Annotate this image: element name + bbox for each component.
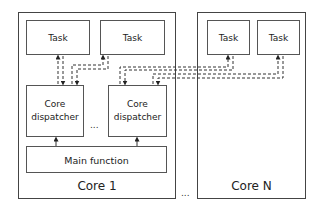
dispatcher-label-line1: Core (109, 98, 166, 111)
core-1-task-1: Task (26, 20, 90, 55)
dispatcher-label: Core dispatcher (109, 98, 166, 124)
dispatcher-ellipsis: ... (90, 120, 99, 130)
dispatcher-label-line2: dispatcher (27, 111, 83, 124)
cores-ellipsis: ... (181, 188, 190, 198)
task-label: Task (27, 33, 89, 43)
task-label: Task (101, 33, 164, 43)
task-label: Task (208, 33, 249, 43)
core-n-task-1: Task (207, 20, 250, 55)
main-function-box: Main function (26, 146, 167, 173)
core-n-label: Core N (198, 179, 305, 193)
core-dispatcher-2: Core dispatcher (108, 85, 167, 137)
main-function-label: Main function (27, 154, 166, 165)
core-1-task-2: Task (100, 20, 165, 55)
dispatcher-label-line1: Core (27, 98, 83, 111)
core-n-task-2: Task (257, 20, 300, 55)
core-dispatcher-1: Core dispatcher (26, 85, 84, 137)
core-1-label: Core 1 (19, 179, 175, 193)
dispatcher-label-line2: dispatcher (109, 111, 166, 124)
task-label: Task (258, 33, 299, 43)
dispatcher-label: Core dispatcher (27, 98, 83, 124)
